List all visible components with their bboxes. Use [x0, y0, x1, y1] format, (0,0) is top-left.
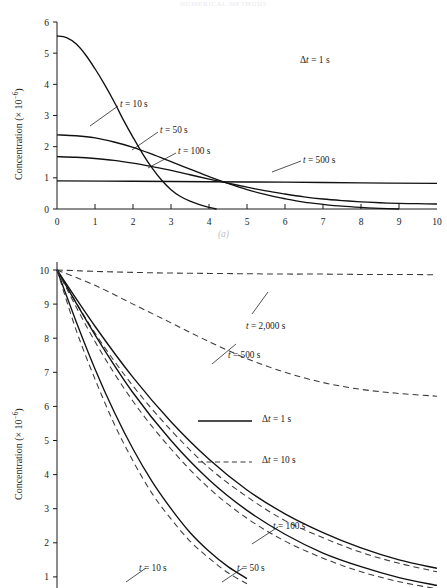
panel-b-legend-label-solid: Δt = 1 s: [262, 414, 291, 424]
panel-b-y-tick-label: 10: [40, 266, 50, 276]
panel-a-y-tick-label: 6: [44, 18, 49, 28]
panel-a-y-axis-title-text: Concentration (× 10: [13, 99, 24, 180]
panel-a-plot: 0123456012345678910: [0, 12, 447, 244]
t-value: = 50 s: [240, 563, 265, 573]
panel-b-curve-label-t10: t = 10 s: [139, 563, 167, 573]
legend-solid-value: = 1 s: [271, 414, 291, 424]
panel-a-y-tick-label: 5: [44, 49, 49, 59]
panel-a-y-tick-label: 4: [44, 80, 49, 90]
panel-b-curve-6: [57, 270, 247, 579]
panel-b-y-axis-exponent: −6: [12, 412, 20, 420]
figure-root: NUMERICAL METHODS 0123456012345678910 Co…: [0, 0, 447, 588]
panel-a-leader-1: [132, 132, 158, 150]
panel-b-curve-1: [57, 270, 437, 396]
t-value: = 100 s: [181, 146, 211, 156]
t-value: = 50 s: [163, 125, 188, 135]
panel-b-curve-2: [57, 270, 437, 568]
panel-a-x-tick-label: 7: [321, 217, 326, 227]
t-value: = 10 s: [123, 99, 148, 109]
panel-a-curve-label-t50: t = 50 s: [160, 125, 188, 135]
panel-a-curve-label-t500: t = 500 s: [303, 155, 335, 165]
panel-b-y-tick-label: 6: [44, 402, 49, 412]
panel-a-curve-label-t10: t = 10 s: [120, 99, 148, 109]
panel-b-y-tick-label: 8: [44, 334, 49, 344]
panel-a-x-tick-label: 2: [131, 217, 136, 227]
panel-a-leader-2: [148, 153, 176, 168]
panel-b-curve-label-t100: t = 100 s: [273, 521, 305, 531]
panel-a-curve-2: [57, 157, 437, 204]
panel-a-caption: (a): [0, 229, 447, 239]
panel-a-y-tick-label: 0: [44, 205, 49, 215]
panel-b-y-tick-label: 2: [44, 538, 49, 548]
panel-a-y-axis-exponent: −6: [12, 92, 20, 100]
panel-a: 0123456012345678910: [0, 12, 447, 244]
panel-a-curve-label-t100: t = 100 s: [178, 146, 210, 156]
panel-b-curve-label-t50: t = 50 s: [237, 563, 265, 573]
panel-a-x-tick-label: 1: [93, 217, 98, 227]
delta-t-value: = 1 s: [309, 55, 330, 65]
panel-a-leader-0: [90, 106, 118, 126]
t-value: = 2,000 s: [249, 321, 286, 331]
t-value: = 500 s: [306, 155, 336, 165]
panel-b-curve-5: [57, 270, 437, 588]
panel-b-leader-0: [252, 292, 268, 314]
panel-b-y-tick-label: 3: [44, 504, 49, 514]
panel-a-y-tick-label: 1: [44, 173, 49, 183]
legend-dashed-value: = 10 s: [271, 455, 296, 465]
panel-b-y-tick-label: 5: [44, 436, 49, 446]
panel-b-y-tick-label: 4: [44, 470, 49, 480]
panel-a-x-tick-label: 8: [359, 217, 364, 227]
panel-b: 12345678910: [0, 252, 447, 588]
panel-a-curve-3: [57, 181, 437, 183]
panel-b-y-tick-label: 1: [44, 572, 49, 582]
panel-a-y-axis-title-suffix: ): [13, 88, 24, 91]
panel-a-delta-t-annotation: Δt = 1 s: [300, 55, 330, 65]
panel-a-y-tick-label: 2: [44, 142, 49, 152]
panel-a-leader-3: [272, 161, 301, 172]
panel-b-curve-4: [57, 270, 437, 585]
panel-b-y-axis-title-suffix: ): [13, 408, 24, 411]
panel-b-curve-0: [57, 270, 437, 275]
panel-b-y-axis-title-text: Concentration (× 10: [13, 419, 24, 500]
panel-a-y-axis-title: Concentration (× 10−6): [12, 88, 24, 180]
panel-b-y-tick-label: 7: [44, 368, 49, 378]
panel-a-curve-0: [57, 36, 217, 209]
panel-a-x-tick-label: 0: [55, 217, 60, 227]
t-value: = 10 s: [142, 563, 167, 573]
t-value: = 500 s: [231, 350, 261, 360]
panel-b-curve-label-t2000: t = 2,000 s: [246, 321, 285, 331]
panel-a-x-tick-label: 3: [169, 217, 174, 227]
panel-a-x-tick-label: 10: [432, 217, 442, 227]
panel-a-x-tick-label: 9: [397, 217, 402, 227]
panel-a-y-tick-label: 3: [44, 111, 49, 121]
panel-a-x-tick-label: 6: [283, 217, 288, 227]
panel-b-curve-label-t500: t = 500 s: [228, 350, 260, 360]
running-head: NUMERICAL METHODS: [0, 0, 447, 12]
panel-a-x-tick-label: 4: [207, 217, 212, 227]
panel-a-curve-1: [57, 135, 399, 209]
panel-b-legend-label-dashed: Δt = 10 s: [262, 455, 296, 465]
panel-b-y-axis-title: Concentration (× 10−6): [12, 408, 24, 500]
panel-b-y-tick-label: 9: [44, 300, 49, 310]
t-value: = 100 s: [276, 521, 306, 531]
panel-a-x-tick-label: 5: [245, 217, 250, 227]
panel-b-plot: 12345678910: [0, 252, 447, 588]
